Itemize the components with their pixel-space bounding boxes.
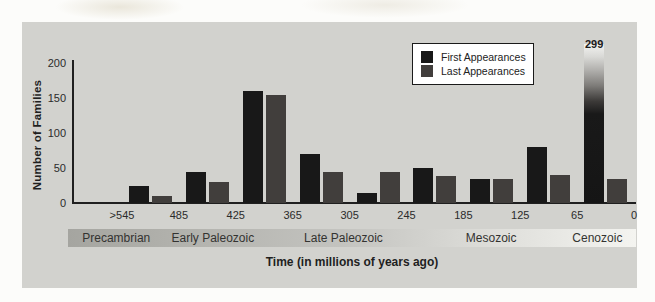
bar-last-appearances [550, 175, 570, 203]
last-appearances-swatch-icon [421, 65, 433, 77]
bar-last-appearances [436, 176, 456, 203]
era-label: Mesozoic [466, 231, 517, 245]
legend-label: Last Appearances [441, 65, 525, 77]
scan-smudge [55, 0, 185, 20]
era-label: Precambrian [82, 231, 150, 245]
legend-item-last-appearances: Last Appearances [421, 65, 526, 77]
bar-first-appearances [129, 186, 149, 204]
bar-last-appearances [493, 179, 513, 204]
bar-last-appearances [209, 182, 229, 203]
x-tick-label: 305 [328, 209, 372, 221]
bar-last-appearances [380, 172, 400, 204]
era-label: Late Paleozoic [304, 231, 383, 245]
scan-smudge [300, 0, 470, 18]
figure-panel: Number of Families 050100150200 >5454854… [22, 22, 637, 288]
bar-first-appearances [527, 147, 547, 203]
x-axis-title: Time (in millions of years ago) [182, 255, 522, 269]
bar-last-appearances [607, 179, 627, 204]
truncated-bar-value-label: 299 [577, 38, 611, 50]
x-tick-label: 485 [157, 209, 201, 221]
bar-first-appearances [584, 44, 604, 203]
x-tick-label: 0 [612, 209, 655, 221]
y-tick-label: 50 [36, 162, 66, 174]
legend: First Appearances Last Appearances [412, 43, 534, 85]
bar-first-appearances [470, 179, 490, 204]
bar-last-appearances [266, 95, 286, 204]
legend-label: First Appearances [441, 51, 526, 63]
bar-first-appearances [413, 168, 433, 203]
era-label: Cenozoic [572, 231, 622, 245]
legend-item-first-appearances: First Appearances [421, 51, 526, 63]
y-tick-label: 150 [36, 92, 66, 104]
x-tick-label: 245 [385, 209, 429, 221]
bar-first-appearances [186, 172, 206, 204]
bar-first-appearances [243, 91, 263, 203]
x-tick-label: 365 [271, 209, 315, 221]
bar-last-appearances [152, 196, 172, 203]
x-tick-label: 425 [214, 209, 258, 221]
first-appearances-swatch-icon [421, 51, 433, 63]
bar-first-appearances [300, 154, 320, 203]
bar-last-appearances [323, 172, 343, 204]
geologic-era-band: PrecambrianEarly PaleozoicLate Paleozoic… [68, 229, 636, 247]
y-tick-label: 100 [36, 127, 66, 139]
x-tick-label: >545 [100, 209, 144, 221]
era-label: Early Paleozoic [171, 231, 254, 245]
x-tick-label: 185 [441, 209, 485, 221]
bar-first-appearances [357, 193, 377, 204]
y-axis [72, 60, 74, 204]
x-tick-label: 65 [555, 209, 599, 221]
y-tick-label: 200 [36, 57, 66, 69]
y-tick-label: 0 [36, 197, 66, 209]
x-tick-label: 125 [498, 209, 542, 221]
figure-page: Number of Families 050100150200 >5454854… [0, 0, 655, 302]
